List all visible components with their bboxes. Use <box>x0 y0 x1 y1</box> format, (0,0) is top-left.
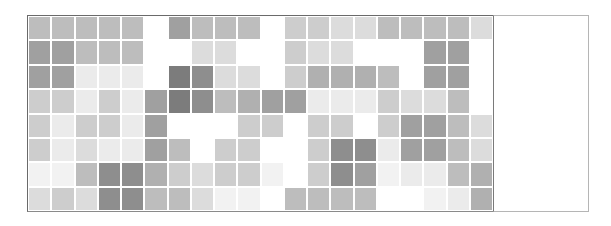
grid-cell[interactable] <box>169 115 190 137</box>
grid-cell[interactable] <box>471 115 492 137</box>
grid-cell[interactable] <box>424 139 445 161</box>
grid-cell[interactable] <box>424 163 445 185</box>
grid-cell[interactable] <box>145 163 166 185</box>
grid-cell[interactable] <box>52 139 73 161</box>
grid-cell[interactable] <box>76 90 97 112</box>
grid-cell[interactable] <box>169 66 190 88</box>
grid-cell[interactable] <box>122 188 143 210</box>
grid-cell[interactable] <box>401 17 422 39</box>
grid-cell[interactable] <box>99 90 120 112</box>
grid-cell[interactable] <box>192 115 213 137</box>
grid-cell[interactable] <box>76 41 97 63</box>
grid-cell[interactable] <box>378 163 399 185</box>
grid-cell[interactable] <box>145 17 166 39</box>
grid-cell[interactable] <box>122 163 143 185</box>
grid-cell[interactable] <box>378 90 399 112</box>
grid-cell[interactable] <box>308 41 329 63</box>
grid-cell[interactable] <box>29 115 50 137</box>
grid-cell[interactable] <box>471 188 492 210</box>
grid-cell[interactable] <box>471 90 492 112</box>
grid-cell[interactable] <box>122 115 143 137</box>
grid-cell[interactable] <box>424 66 445 88</box>
grid-cell[interactable] <box>29 66 50 88</box>
grid-cell[interactable] <box>401 41 422 63</box>
grid-cell[interactable] <box>378 66 399 88</box>
grid-cell[interactable] <box>76 188 97 210</box>
grid-cell[interactable] <box>285 90 306 112</box>
grid-cell[interactable] <box>238 66 259 88</box>
grid-cell[interactable] <box>401 139 422 161</box>
grid-cell[interactable] <box>192 90 213 112</box>
grid-cell[interactable] <box>448 41 469 63</box>
grid-cell[interactable] <box>76 139 97 161</box>
grid-cell[interactable] <box>262 115 283 137</box>
grid-cell[interactable] <box>29 139 50 161</box>
grid-cell[interactable] <box>262 41 283 63</box>
grid-cell[interactable] <box>331 188 352 210</box>
grid-cell[interactable] <box>424 188 445 210</box>
grid-cell[interactable] <box>262 66 283 88</box>
grid-cell[interactable] <box>378 188 399 210</box>
grid-cell[interactable] <box>99 163 120 185</box>
grid-cell[interactable] <box>215 115 236 137</box>
grid-cell[interactable] <box>378 41 399 63</box>
grid-cell[interactable] <box>76 17 97 39</box>
grid-cell[interactable] <box>145 188 166 210</box>
grid-cell[interactable] <box>308 139 329 161</box>
grid-cell[interactable] <box>285 115 306 137</box>
grid-cell[interactable] <box>471 66 492 88</box>
grid-cell[interactable] <box>145 41 166 63</box>
grid-cell[interactable] <box>308 90 329 112</box>
grid-cell[interactable] <box>331 163 352 185</box>
grid-cell[interactable] <box>355 41 376 63</box>
grid-cell[interactable] <box>355 139 376 161</box>
grid-cell[interactable] <box>122 17 143 39</box>
grid-cell[interactable] <box>238 90 259 112</box>
grid-cell[interactable] <box>401 115 422 137</box>
grid-cell[interactable] <box>192 41 213 63</box>
grid-cell[interactable] <box>145 90 166 112</box>
grid-cell[interactable] <box>192 66 213 88</box>
grid-cell[interactable] <box>262 90 283 112</box>
grid-cell[interactable] <box>52 90 73 112</box>
grid-cell[interactable] <box>215 17 236 39</box>
grid-cell[interactable] <box>471 41 492 63</box>
grid-cell[interactable] <box>215 90 236 112</box>
grid-cell[interactable] <box>29 188 50 210</box>
grid-cell[interactable] <box>285 188 306 210</box>
grid-cell[interactable] <box>378 139 399 161</box>
grid-cell[interactable] <box>285 17 306 39</box>
grid-cell[interactable] <box>122 139 143 161</box>
grid-cell[interactable] <box>238 17 259 39</box>
grid-cell[interactable] <box>331 115 352 137</box>
grid-cell[interactable] <box>448 139 469 161</box>
grid-cell[interactable] <box>355 163 376 185</box>
grid-cell[interactable] <box>52 17 73 39</box>
grid-cell[interactable] <box>285 139 306 161</box>
grid-cell[interactable] <box>448 90 469 112</box>
grid-cell[interactable] <box>29 17 50 39</box>
grid-cell[interactable] <box>76 163 97 185</box>
grid-cell[interactable] <box>145 139 166 161</box>
grid-cell[interactable] <box>401 90 422 112</box>
tile-grid-board[interactable] <box>27 15 493 212</box>
grid-cell[interactable] <box>285 66 306 88</box>
grid-cell[interactable] <box>308 188 329 210</box>
grid-cell[interactable] <box>424 41 445 63</box>
grid-cell[interactable] <box>169 90 190 112</box>
grid-cell[interactable] <box>378 17 399 39</box>
grid-cell[interactable] <box>99 115 120 137</box>
grid-cell[interactable] <box>76 115 97 137</box>
grid-cell[interactable] <box>169 163 190 185</box>
grid-cell[interactable] <box>448 163 469 185</box>
grid-cell[interactable] <box>29 90 50 112</box>
grid-cell[interactable] <box>308 66 329 88</box>
grid-cell[interactable] <box>192 139 213 161</box>
grid-cell[interactable] <box>238 139 259 161</box>
grid-cell[interactable] <box>29 163 50 185</box>
grid-cell[interactable] <box>401 188 422 210</box>
grid-cell[interactable] <box>424 90 445 112</box>
grid-cell[interactable] <box>52 163 73 185</box>
grid-cell[interactable] <box>355 66 376 88</box>
grid-cell[interactable] <box>308 115 329 137</box>
